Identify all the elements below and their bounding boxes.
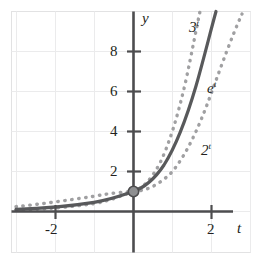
ytick-label-6: 6 bbox=[110, 84, 118, 99]
curve-label-et-base: e bbox=[207, 80, 214, 96]
x-axis-label: t bbox=[237, 221, 241, 236]
ytick-label-8: 8 bbox=[110, 44, 118, 59]
curve-label-et: et bbox=[207, 81, 216, 96]
marked-point-0-1 bbox=[128, 186, 138, 196]
curve-label-2t-base: 2 bbox=[201, 142, 209, 158]
curve-label-3t-base: 3 bbox=[189, 19, 197, 35]
curve-label-et-exponent: t bbox=[214, 79, 217, 89]
curve-label-3t: 3t bbox=[189, 20, 199, 35]
curve-label-2t: 2t bbox=[201, 143, 211, 158]
xtick-label-2: 2 bbox=[207, 222, 215, 237]
xtick-label-neg2: -2 bbox=[45, 222, 58, 237]
curve-label-2t-exponent: t bbox=[209, 141, 212, 151]
ytick-label-4: 4 bbox=[110, 124, 118, 139]
curve-label-3t-exponent: t bbox=[197, 18, 200, 28]
ytick-label-2: 2 bbox=[110, 164, 118, 179]
y-axis-label: y bbox=[142, 11, 149, 26]
exponential-functions-figure: 8 6 4 2 -2 2 y t 3t et 2t bbox=[0, 0, 266, 263]
plot-canvas bbox=[0, 0, 266, 263]
